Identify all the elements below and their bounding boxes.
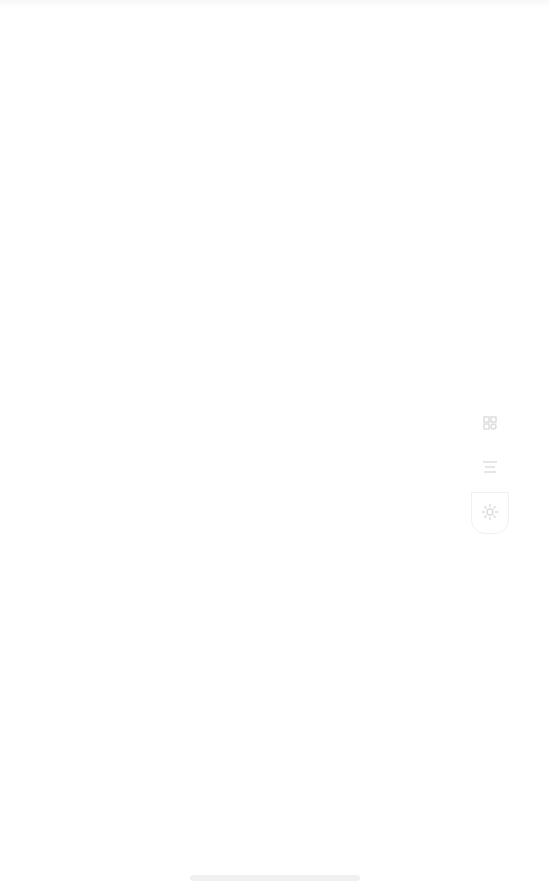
page — [0, 0, 549, 884]
menu-icon — [480, 457, 500, 480]
toolbar-button-menu[interactable] — [472, 448, 508, 488]
floating-toolbar — [468, 404, 512, 540]
bottom-indicator-bar — [190, 875, 360, 881]
tools-icon — [480, 413, 500, 436]
settings-icon — [480, 502, 500, 525]
toolbar-button-tools[interactable] — [472, 404, 508, 444]
toolbar-button-settings[interactable] — [471, 492, 509, 534]
blank-content-area — [0, 8, 549, 858]
top-header-strip — [0, 0, 549, 8]
